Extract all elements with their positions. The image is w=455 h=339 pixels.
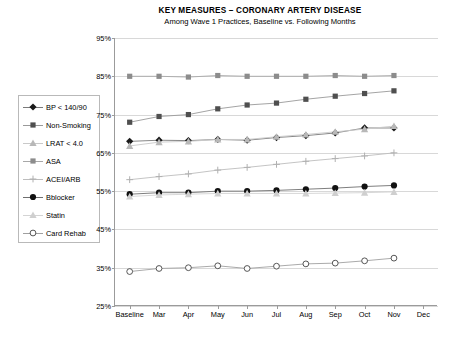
series-marker: [127, 269, 133, 275]
x-axis-tick-label: Baseline: [115, 310, 143, 319]
series-marker: [186, 74, 191, 79]
series-line: [130, 91, 394, 122]
series-marker: [127, 120, 132, 125]
legend-marker-diamond-icon: [23, 102, 43, 112]
series-marker: [274, 263, 280, 269]
data-series: [127, 73, 396, 80]
series-marker: [332, 155, 339, 162]
series-marker: [215, 73, 220, 78]
x-axis-tick-label: Jul: [272, 310, 281, 319]
x-axis-tick-mark: [394, 306, 395, 309]
series-marker: [273, 161, 280, 168]
x-axis-tick-label: Oct: [359, 310, 371, 319]
legend-item-label: Non-Smoking: [46, 121, 91, 130]
series-marker: [391, 182, 397, 188]
series-marker: [274, 100, 279, 105]
legend-item-label: Card Rehab: [46, 229, 86, 238]
y-axis-tick-label: 75%: [87, 110, 111, 119]
series-marker: [245, 74, 250, 79]
title-block: KEY MEASURES – CORONARY ARTERY DISEASE A…: [110, 5, 410, 27]
x-axis-tick-label: Dec: [417, 310, 430, 319]
series-marker: [303, 74, 308, 79]
legend-item-non-smoking[interactable]: Non-Smoking: [23, 118, 91, 132]
legend-item-lrat-4-0[interactable]: LRAT < 4.0: [23, 136, 83, 150]
x-axis-tick-mark: [159, 306, 160, 309]
series-marker: [362, 74, 367, 79]
series-marker: [186, 112, 191, 117]
series-marker: [362, 91, 367, 96]
legend-marker-circle-open-icon: [23, 228, 43, 238]
series-marker: [156, 114, 161, 119]
x-axis-tick-mark: [306, 306, 307, 309]
data-series: [127, 255, 397, 274]
series-marker: [362, 258, 368, 264]
y-axis-tick-label: 55%: [87, 187, 111, 196]
x-axis-tick-label: Apr: [183, 310, 195, 319]
legend-marker-circle-filled-icon: [23, 192, 43, 202]
series-marker: [274, 74, 279, 79]
series-marker: [361, 183, 367, 189]
series-marker: [303, 97, 308, 102]
series-line: [130, 76, 394, 78]
series-marker: [391, 73, 396, 78]
x-axis-tick-mark: [365, 306, 366, 309]
legend-item-label: ASA: [46, 157, 61, 166]
series-marker: [391, 88, 396, 93]
legend-item-asa[interactable]: ASA: [23, 154, 61, 168]
series-marker: [333, 73, 338, 78]
legend-item-bp-140-90[interactable]: BP < 140/90: [23, 100, 87, 114]
legend-item-statin[interactable]: Statin: [23, 208, 65, 222]
x-axis-tick-label: Sep: [329, 310, 342, 319]
legend-item-label: LRAT < 4.0: [46, 139, 83, 148]
chart-subtitle: Among Wave 1 Practices, Baseline vs. Fol…: [110, 16, 410, 27]
series-marker: [303, 261, 309, 267]
series-marker: [332, 260, 338, 266]
y-axis-tick-label: 35%: [87, 263, 111, 272]
series-marker: [391, 255, 397, 261]
legend-marker-plus-icon: [23, 174, 43, 184]
chart-container: KEY MEASURES – CORONARY ARTERY DISEASE A…: [0, 0, 455, 339]
x-axis-tick-label: Jun: [241, 310, 253, 319]
x-axis-tick-label: May: [211, 310, 225, 319]
series-marker: [126, 176, 133, 183]
x-axis-tick-mark: [277, 306, 278, 309]
x-axis-tick-mark: [130, 306, 131, 309]
data-series: [126, 122, 397, 149]
data-series: [126, 149, 397, 183]
series-marker: [391, 149, 398, 156]
series-plot: [115, 38, 438, 306]
x-axis-tick-mark: [218, 306, 219, 309]
x-axis-tick-label: Mar: [153, 310, 166, 319]
data-series: [127, 88, 396, 125]
legend-item-label: BP < 140/90: [46, 103, 87, 112]
page-title: KEY MEASURES – CORONARY ARTERY DISEASE: [110, 5, 410, 16]
legend-item-card-rehab[interactable]: Card Rehab: [23, 226, 86, 240]
series-marker: [302, 158, 309, 165]
y-axis-tick-label: 25%: [87, 302, 111, 311]
legend-item-acei-arb[interactable]: ACEI/ARB: [23, 172, 81, 186]
legend-item-label: Bblocker: [46, 193, 75, 202]
series-marker: [156, 74, 161, 79]
series-marker: [185, 171, 192, 178]
y-axis-tick-label: 45%: [87, 225, 111, 234]
series-marker: [215, 263, 221, 269]
x-axis-tick-mark: [188, 306, 189, 309]
series-marker: [244, 164, 251, 171]
series-marker: [186, 265, 192, 271]
series-marker: [333, 94, 338, 99]
legend-marker-triangle-icon: [23, 138, 43, 148]
series-marker: [156, 266, 162, 272]
data-series: [126, 188, 397, 199]
legend-marker-square-icon: [23, 156, 43, 166]
series-marker: [390, 122, 397, 129]
legend-item-label: ACEI/ARB: [46, 175, 81, 184]
series-marker: [245, 102, 250, 107]
y-axis-tick-label: 65%: [87, 148, 111, 157]
y-axis-tick-label: 85%: [87, 72, 111, 81]
x-axis-tick-mark: [423, 306, 424, 309]
y-axis-tick-label: 95%: [87, 34, 111, 43]
x-axis-tick-label: Aug: [299, 310, 312, 319]
series-marker: [244, 266, 250, 272]
legend-marker-square-icon: [23, 120, 43, 130]
legend-item-bblocker[interactable]: Bblocker: [23, 190, 75, 204]
